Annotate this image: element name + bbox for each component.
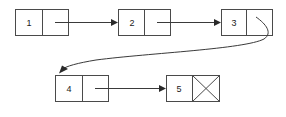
- diagram-canvas: 1 2 3 4 5: [0, 0, 286, 117]
- arrowhead-into-node-2: [111, 19, 118, 26]
- node-5-label: 5: [176, 84, 181, 94]
- node-3-label: 3: [231, 18, 236, 28]
- linked-list-diagram: 1 2 3 4 5: [0, 0, 286, 117]
- list-node-5: 5: [167, 76, 220, 102]
- node-1-label: 1: [26, 18, 31, 28]
- list-node-3: 3: [222, 10, 273, 36]
- node-4-label: 4: [66, 84, 71, 94]
- arrowhead-into-node-5: [159, 85, 166, 92]
- node-2-label: 2: [129, 18, 134, 28]
- arrowhead-into-node-3: [214, 19, 221, 26]
